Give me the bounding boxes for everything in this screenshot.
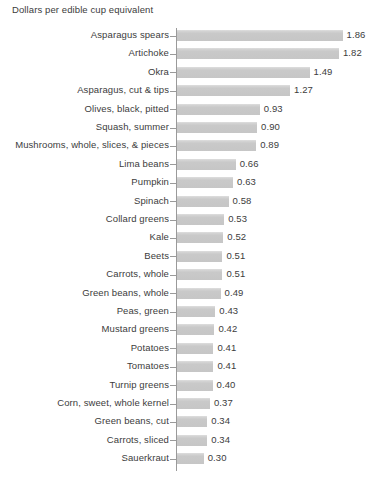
category-label: Mustard greens — [102, 323, 169, 334]
axis-tick — [170, 201, 177, 202]
bar-value-label: 0.89 — [260, 139, 279, 150]
bar-value-label: 0.34 — [211, 434, 230, 445]
bar — [177, 67, 310, 78]
bar-value-label: 0.93 — [264, 103, 283, 114]
category-label: Corn, sweet, whole kernel — [57, 397, 169, 408]
category-label: Asparagus spears — [91, 29, 169, 40]
axis-tick — [170, 293, 177, 294]
bar-row: Artichoke1.82 — [0, 46, 375, 64]
category-label: Sauerkraut — [122, 452, 169, 463]
bar-value-label: 0.43 — [219, 305, 238, 316]
chart-title: Dollars per edible cup equivalent — [12, 4, 153, 15]
bar-value-label: 0.30 — [208, 452, 227, 463]
axis-tick — [170, 330, 177, 331]
bar-row: Asparagus, cut & tips1.27 — [0, 83, 375, 101]
bar — [177, 453, 204, 464]
bar-chart: Dollars per edible cup equivalent Aspara… — [0, 0, 375, 489]
bar-value-label: 0.34 — [211, 415, 230, 426]
category-label: Carrots, whole — [106, 268, 169, 279]
axis-tick — [170, 422, 177, 423]
axis-tick — [170, 312, 177, 313]
bar-value-label: 0.42 — [218, 323, 237, 334]
bar — [177, 288, 221, 299]
category-label: Collard greens — [106, 213, 169, 224]
bar-value-label: 0.41 — [217, 342, 236, 353]
bar — [177, 104, 260, 115]
category-label: Squash, summer — [96, 121, 169, 132]
bar-row: Mustard greens0.42 — [0, 322, 375, 340]
category-label: Artichoke — [128, 47, 169, 58]
bar-row: Spinach0.58 — [0, 194, 375, 212]
bar — [177, 159, 236, 170]
axis-tick — [170, 220, 177, 221]
category-label: Kale — [150, 231, 169, 242]
bar-value-label: 1.27 — [294, 84, 313, 95]
axis-tick — [170, 238, 177, 239]
bar-row: Lima beans0.66 — [0, 157, 375, 175]
axis-tick — [170, 275, 177, 276]
bar-row: Sauerkraut0.30 — [0, 451, 375, 469]
bar-value-label: 0.37 — [214, 397, 233, 408]
category-label: Potatoes — [131, 342, 169, 353]
bar — [177, 30, 343, 41]
bar-value-label: 0.63 — [237, 176, 256, 187]
axis-tick — [170, 404, 177, 405]
bar-row: Kale0.52 — [0, 230, 375, 248]
bar-row: Potatoes0.41 — [0, 341, 375, 359]
category-label: Green beans, cut — [95, 415, 169, 426]
bar — [177, 324, 214, 335]
bar-row: Collard greens0.53 — [0, 212, 375, 230]
bar-value-label: 0.51 — [226, 250, 245, 261]
bar — [177, 177, 233, 188]
bar — [177, 48, 339, 59]
bar-value-label: 0.90 — [261, 121, 280, 132]
bar — [177, 343, 213, 354]
bar — [177, 251, 222, 262]
bar — [177, 380, 213, 391]
bar-value-label: 0.41 — [217, 360, 236, 371]
bar-row: Pumpkin0.63 — [0, 175, 375, 193]
category-label: Tomatoes — [127, 360, 169, 371]
bar-row: Turnip greens0.40 — [0, 378, 375, 396]
bar — [177, 85, 290, 96]
bar — [177, 398, 210, 409]
axis-tick — [170, 440, 177, 441]
bar — [177, 140, 256, 151]
bar-row: Corn, sweet, whole kernel0.37 — [0, 396, 375, 414]
category-label: Spinach — [134, 195, 169, 206]
axis-tick — [170, 348, 177, 349]
bar — [177, 122, 257, 133]
axis-tick — [170, 183, 177, 184]
axis-tick — [170, 109, 177, 110]
bar-row: Carrots, sliced0.34 — [0, 433, 375, 451]
bar-value-label: 0.49 — [225, 287, 244, 298]
bar-row: Asparagus spears1.86 — [0, 28, 375, 46]
bar-row: Peas, green0.43 — [0, 304, 375, 322]
bar — [177, 214, 224, 225]
bar-value-label: 1.49 — [314, 66, 333, 77]
axis-tick — [170, 256, 177, 257]
bar — [177, 306, 215, 317]
axis-tick — [170, 91, 177, 92]
axis-tick — [170, 72, 177, 73]
bar-value-label: 0.52 — [227, 231, 246, 242]
bar — [177, 361, 213, 372]
bar-value-label: 0.53 — [228, 213, 247, 224]
category-label: Asparagus, cut & tips — [77, 84, 169, 95]
axis-tick — [170, 164, 177, 165]
axis-tick — [170, 146, 177, 147]
bar-row: Green beans, whole0.49 — [0, 286, 375, 304]
axis-tick — [170, 385, 177, 386]
axis-tick — [170, 36, 177, 37]
category-label: Olives, black, pitted — [85, 103, 169, 114]
plot-area: Asparagus spears1.86Artichoke1.82Okra1.4… — [0, 28, 375, 480]
bar-row: Olives, black, pitted0.93 — [0, 102, 375, 120]
bar-row: Okra1.49 — [0, 65, 375, 83]
category-label: Green beans, whole — [82, 287, 169, 298]
bar — [177, 196, 229, 207]
bar-value-label: 0.51 — [226, 268, 245, 279]
bar-value-label: 0.40 — [217, 379, 236, 390]
axis-tick — [170, 459, 177, 460]
bar-row: Tomatoes0.41 — [0, 359, 375, 377]
bar-row: Carrots, whole0.51 — [0, 267, 375, 285]
